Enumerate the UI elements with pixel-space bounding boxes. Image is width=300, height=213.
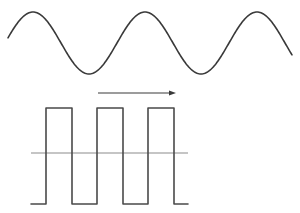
square-wave-path	[31, 108, 188, 204]
direction-arrow-head	[169, 91, 176, 96]
sine-wave-path	[8, 12, 292, 74]
direction-arrow	[98, 91, 176, 96]
waveform-diagram: Sine wave and square wave signal diagram	[0, 0, 300, 213]
diagram-canvas: Sine wave and square wave signal diagram	[0, 0, 300, 213]
